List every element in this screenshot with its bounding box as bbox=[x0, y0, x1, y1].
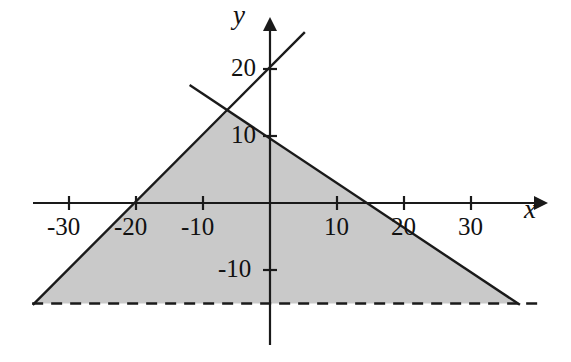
y-tick-label-10: 10 bbox=[231, 122, 256, 147]
y-axis-arrow bbox=[263, 17, 277, 31]
x-tick-label-30: 30 bbox=[458, 214, 483, 239]
y-tick-label--10: -10 bbox=[218, 256, 251, 281]
x-axis-arrow bbox=[534, 196, 548, 210]
coordinate-plot bbox=[0, 0, 571, 362]
shaded-region-group bbox=[33, 111, 520, 303]
x-tick-label-10: 10 bbox=[324, 214, 349, 239]
y-axis-label: y bbox=[233, 2, 245, 29]
x-tick-label--10: -10 bbox=[181, 214, 214, 239]
x-tick-label-20: 20 bbox=[391, 214, 416, 239]
y-tick-label-20: 20 bbox=[231, 55, 256, 80]
graph-figure: -30-20-101020302010-10 x y bbox=[0, 0, 571, 362]
x-axis-label: x bbox=[524, 196, 536, 223]
x-tick-label--20: -20 bbox=[114, 214, 147, 239]
feasible-region-polygon bbox=[33, 111, 520, 303]
x-tick-label--30: -30 bbox=[47, 214, 80, 239]
